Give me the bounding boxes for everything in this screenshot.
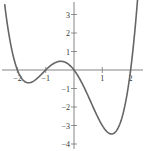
y-tick-label: 3 <box>66 11 70 20</box>
x-tick-label: −1 <box>41 74 50 83</box>
x-tick-label: 1 <box>100 74 104 83</box>
y-tick-label: 2 <box>66 29 70 38</box>
y-tick-label: −3 <box>61 122 70 131</box>
y-tick-label: −2 <box>61 103 70 112</box>
axes <box>2 2 143 149</box>
y-tick-label: −1 <box>61 85 70 94</box>
y-tick-label: −4 <box>61 140 70 149</box>
function-plot: −2−112321−1−2−3−4 <box>0 0 145 151</box>
tick-labels: −2−112321−1−2−3−4 <box>13 11 132 150</box>
y-tick-label: 1 <box>66 48 70 57</box>
plot-canvas: −2−112321−1−2−3−4 <box>0 0 145 151</box>
